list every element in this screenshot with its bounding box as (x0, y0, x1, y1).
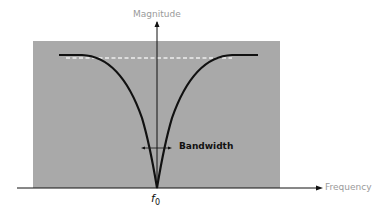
center-frequency-label: f0 (151, 192, 160, 207)
y-axis-label: Magnitude (133, 9, 181, 19)
center-frequency-subscript: 0 (155, 198, 160, 207)
y-axis-arrow-icon (155, 21, 160, 27)
bandwidth-label: Bandwidth (179, 141, 233, 151)
x-axis-arrow-icon (316, 186, 323, 191)
x-axis-label: Frequency (325, 182, 372, 192)
